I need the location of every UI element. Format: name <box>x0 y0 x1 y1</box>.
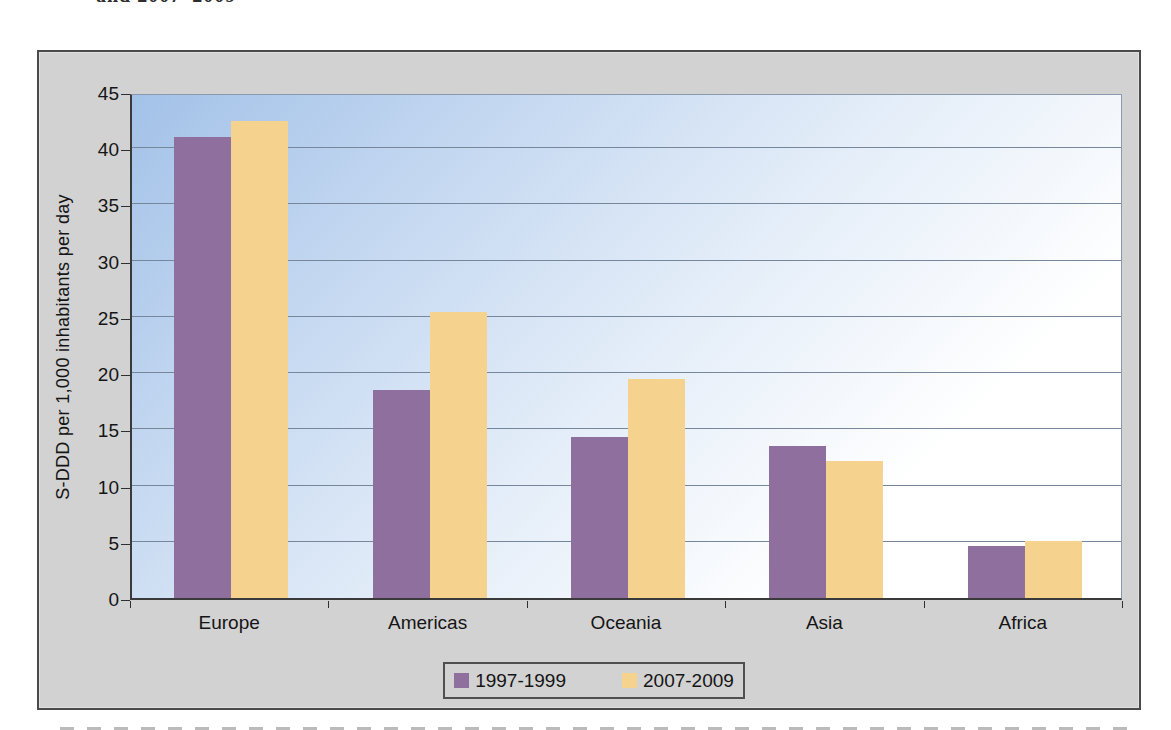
x-tick-2 <box>527 601 528 608</box>
bar-europe-2007-2009 <box>231 121 288 598</box>
legend-swatch-2007-2009 <box>622 673 637 688</box>
legend-item-2007-2009: 2007-2009 <box>622 670 734 692</box>
y-tick-label-5: 5 <box>67 533 119 555</box>
y-tick-40 <box>121 150 130 151</box>
x-tick-0 <box>130 601 131 608</box>
clipped-heading-text: and 2007–2009 <box>96 0 496 7</box>
x-category-label-europe: Europe <box>199 612 260 634</box>
y-tick-0 <box>121 600 130 601</box>
y-tick-45 <box>121 94 130 95</box>
y-axis-title-wrap: S-DDD per 1,000 inhabitants per day <box>53 94 79 600</box>
bar-americas-1997-1999 <box>373 390 430 598</box>
y-tick-label-20: 20 <box>67 364 119 386</box>
legend-label-1997-1999: 1997-1999 <box>475 670 566 692</box>
y-axis-title: S-DDD per 1,000 inhabitants per day <box>53 194 73 500</box>
y-tick-35 <box>121 206 130 207</box>
y-tick-label-15: 15 <box>67 420 119 442</box>
y-tick-10 <box>121 488 130 489</box>
y-tick-label-0: 0 <box>67 589 119 611</box>
chart-frame: S-DDD per 1,000 inhabitants per day Euro… <box>37 50 1141 710</box>
scanned-chart-page: and 2007–2009 S-DDD per 1,000 inhabitant… <box>0 0 1171 730</box>
bar-europe-1997-1999 <box>174 137 231 598</box>
bar-oceania-1997-1999 <box>571 437 628 598</box>
y-tick-label-40: 40 <box>67 139 119 161</box>
y-tick-label-25: 25 <box>67 308 119 330</box>
y-tick-5 <box>121 544 130 545</box>
bar-oceania-2007-2009 <box>628 379 685 598</box>
y-tick-25 <box>121 319 130 320</box>
bar-africa-1997-1999 <box>968 546 1025 598</box>
clipped-heading-fragment: and 2007–2009 <box>96 0 496 9</box>
legend-swatch-1997-1999 <box>454 673 469 688</box>
y-tick-label-45: 45 <box>67 83 119 105</box>
x-tick-5 <box>1122 601 1123 608</box>
y-tick-20 <box>121 375 130 376</box>
bar-asia-2007-2009 <box>826 461 883 598</box>
y-tick-label-30: 30 <box>67 252 119 274</box>
x-tick-3 <box>725 601 726 608</box>
x-category-label-asia: Asia <box>806 612 843 634</box>
x-axis-labels: EuropeAmericasOceaniaAsiaAfrica <box>130 612 1122 638</box>
x-tick-4 <box>924 601 925 608</box>
bar-asia-1997-1999 <box>769 446 826 598</box>
x-tick-1 <box>328 601 329 608</box>
y-tick-label-35: 35 <box>67 195 119 217</box>
y-tick-30 <box>121 263 130 264</box>
x-category-label-africa: Africa <box>999 612 1048 634</box>
legend: 1997-19992007-2009 <box>443 662 745 699</box>
y-tick-15 <box>121 431 130 432</box>
plot-area <box>130 94 1122 600</box>
y-tick-label-10: 10 <box>67 477 119 499</box>
legend-item-1997-1999: 1997-1999 <box>454 670 566 692</box>
x-category-label-americas: Americas <box>388 612 467 634</box>
x-category-label-oceania: Oceania <box>591 612 662 634</box>
bar-americas-2007-2009 <box>430 312 487 598</box>
bar-africa-2007-2009 <box>1025 541 1082 598</box>
legend-label-2007-2009: 2007-2009 <box>643 670 734 692</box>
